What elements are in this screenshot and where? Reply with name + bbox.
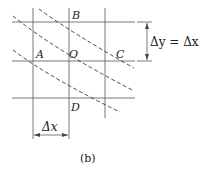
dashed-curve-lower <box>13 50 120 112</box>
label-d: D <box>70 101 80 114</box>
arrow-up-icon <box>145 23 149 29</box>
label-a: A <box>35 48 44 61</box>
dimension-y-equation: Δy = Δx <box>150 35 199 49</box>
dimension-x-label: Δx <box>41 120 58 134</box>
arrow-right-icon <box>62 133 68 137</box>
figure-caption: (b) <box>80 152 96 165</box>
label-b: B <box>71 9 80 22</box>
label-c: C <box>116 48 125 61</box>
arrow-down-icon <box>145 54 149 60</box>
arrow-left-icon <box>34 133 40 137</box>
grid-diagram: B A O C D Δy = Δx Δx (b) <box>0 0 204 172</box>
label-o: O <box>69 48 78 61</box>
